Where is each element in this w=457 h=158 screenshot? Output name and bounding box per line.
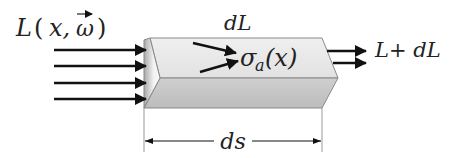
incoming-args: x, — [49, 14, 70, 42]
length-label: ds — [220, 129, 245, 154]
differential-L-label: dL — [224, 11, 251, 35]
sigma-subscript: a — [255, 56, 265, 75]
incoming-radiance-label: L ( x, ω ) — [15, 14, 106, 42]
absorption-coefficient-label: σ a (x) — [240, 44, 297, 75]
outgoing-radiance-label: L+ dL — [374, 38, 441, 62]
box-front-face — [144, 78, 338, 108]
open-paren: ( — [34, 14, 43, 42]
close-paren: ) — [97, 14, 106, 42]
incoming-L: L — [15, 14, 32, 42]
incoming-omega: ω — [76, 16, 94, 41]
outgoing-arrows — [327, 51, 366, 63]
sigma-argument: (x) — [265, 44, 297, 72]
length-dimension: ds — [144, 108, 322, 154]
radiative-transfer-diagram: ds L ( x, ω ) dL σ a (x) L+ dL — [0, 0, 457, 158]
incoming-arrows — [54, 50, 146, 99]
